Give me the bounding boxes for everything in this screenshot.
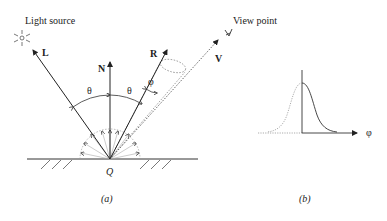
- phi-arc: [146, 89, 157, 93]
- V-label: V: [215, 53, 223, 64]
- theta-right-label: θ: [127, 85, 132, 96]
- light-source-label: Light source: [25, 15, 76, 26]
- specular-reflection-diagram: Light source View point L N R V θ θ φ Q …: [0, 0, 387, 221]
- reflection-vector-R: [110, 50, 167, 159]
- theta-arc-right: [110, 95, 142, 104]
- view-point-eye-icon: [225, 29, 232, 36]
- N-label: N: [98, 63, 106, 74]
- Q-point-label: Q: [106, 166, 114, 177]
- phi-label: φ: [148, 76, 154, 87]
- phi-axis-label: φ: [366, 127, 372, 138]
- panel-a: Light source View point L N R V θ θ φ Q …: [14, 15, 277, 205]
- light-source-icon: [14, 30, 30, 46]
- panel-a-caption: (a): [101, 193, 113, 205]
- view-point-label: View point: [233, 15, 277, 26]
- specular-curve-positive: [302, 83, 337, 132]
- specular-curve-negative: [267, 83, 302, 132]
- theta-arc-left: [73, 95, 110, 107]
- theta-left-label: θ: [87, 85, 92, 96]
- L-label: L: [42, 47, 49, 58]
- view-vector-V: [110, 40, 218, 159]
- panel-b: φ (b): [258, 70, 372, 205]
- R-label: R: [150, 48, 158, 59]
- panel-b-caption: (b): [299, 193, 311, 205]
